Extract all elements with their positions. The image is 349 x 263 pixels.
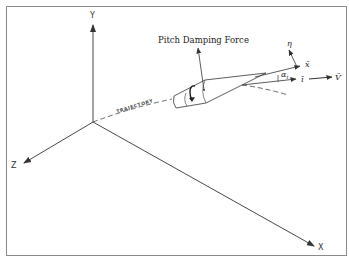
i-bar-label: ī xyxy=(301,75,304,84)
x-axis-label: X xyxy=(318,243,324,252)
alpha-label: αt xyxy=(281,70,289,80)
v-bar-vector xyxy=(309,77,332,79)
trajectory-label: TRAJECTORY xyxy=(116,98,154,114)
x-bar-vector xyxy=(255,66,300,77)
trajectory-continuation xyxy=(242,85,288,95)
trajectory-path xyxy=(93,99,172,122)
eta-vector xyxy=(289,50,297,67)
v-bar-label: V̄ xyxy=(335,73,342,82)
pitch-damping-force-label: Pitch Damping Force xyxy=(158,35,249,45)
z-axis-label: Z xyxy=(11,161,17,170)
projectile-body xyxy=(173,73,266,108)
y-axis-label: Y xyxy=(89,11,95,20)
eta-label: η xyxy=(287,39,292,48)
x-axis xyxy=(93,122,314,246)
pitch-damping-diagram: Y Z X TRAJECTORY Pitch Damping Force x̄ … xyxy=(0,0,349,263)
x-bar-label: x̄ xyxy=(305,60,310,69)
z-axis xyxy=(24,122,93,163)
